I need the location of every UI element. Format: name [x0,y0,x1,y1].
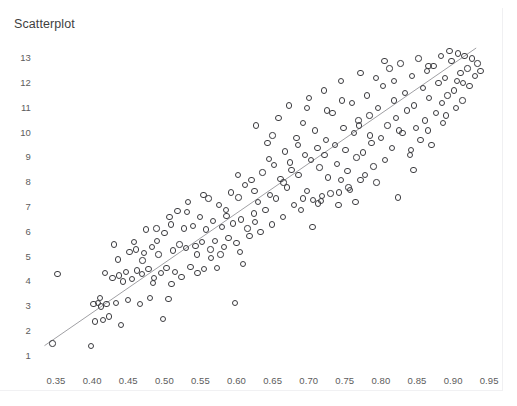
data-point [325,174,331,180]
data-point [232,300,238,306]
data-point [338,177,344,183]
data-point [219,224,225,230]
data-point [345,184,351,190]
data-point [318,198,324,204]
data-point [293,135,299,141]
data-point [253,122,259,128]
data-point [165,296,171,302]
data-point [123,269,129,275]
data-point [271,162,277,168]
data-point [216,202,222,208]
data-point [464,65,470,71]
data-point [438,53,444,59]
data-point [129,276,135,282]
data-point [255,199,261,205]
data-point [131,239,137,245]
data-point [251,188,257,194]
data-point [352,199,358,205]
data-point [336,189,342,195]
data-point [252,219,258,225]
data-point [420,85,426,91]
data-point [373,75,379,81]
data-point [109,275,115,281]
data-point [357,177,363,183]
data-point [143,226,149,232]
data-point [223,207,229,213]
data-point [304,105,310,111]
data-point [329,110,335,116]
data-point [367,132,373,138]
x-axis-tick-label: 0.75 [335,375,354,386]
data-point [397,60,403,66]
plot-area[interactable]: 12345678910111213 0.350.400.450.500.550.… [38,46,500,366]
data-point [443,112,449,118]
x-axis-tick-label: 0.70 [299,375,318,386]
data-point [149,244,155,250]
data-point [145,266,151,272]
data-point [267,192,273,198]
data-point [221,244,227,250]
data-point [282,148,288,154]
data-point [120,278,126,284]
data-point [426,95,432,101]
data-point [439,100,445,106]
data-point [266,156,272,162]
data-point [335,202,341,208]
data-point [356,122,362,128]
data-point [170,247,176,253]
data-point [474,60,480,66]
data-point [360,149,366,155]
data-point [92,318,98,324]
data-point [242,182,248,188]
data-point [139,257,145,263]
data-point [194,270,200,276]
y-axis-tick-label: 1 [26,349,31,360]
y-axis-tick-label: 4 [26,275,31,286]
data-point [153,225,159,231]
data-point [269,221,275,227]
data-point [176,241,182,247]
data-point [163,265,169,271]
data-point [280,179,286,185]
data-point [321,152,327,158]
data-point [321,87,327,93]
data-point [312,127,318,133]
data-point [194,251,200,257]
data-point [212,238,218,244]
data-point [461,53,467,59]
data-point [433,110,439,116]
top-clipped-text: · · · · [14,0,42,5]
data-point [340,125,346,131]
data-point [280,214,286,220]
data-point [269,132,275,138]
data-point [455,50,461,56]
data-point [115,256,121,262]
x-axis-tick-label: 0.80 [371,375,390,386]
data-point [141,250,147,256]
data-point [417,137,423,143]
data-point [425,63,431,69]
data-point [235,194,241,200]
data-point [295,142,301,148]
data-point [457,70,463,76]
data-point [425,127,431,133]
data-point [150,280,156,286]
data-point [338,78,344,84]
data-point [246,233,252,239]
data-point [339,97,345,103]
data-point [440,120,446,126]
data-point [208,255,214,261]
data-point [472,73,478,79]
data-point [288,167,294,173]
data-point [477,68,483,74]
data-point [172,269,178,275]
y-axis-tick-label: 9 [26,151,31,162]
data-point [201,266,207,272]
data-point [453,105,459,111]
x-axis-tick-label: 0.45 [119,375,138,386]
data-point [428,142,434,148]
data-point [223,213,229,219]
data-point [251,210,257,216]
data-point [396,127,402,133]
data-point [257,229,263,235]
